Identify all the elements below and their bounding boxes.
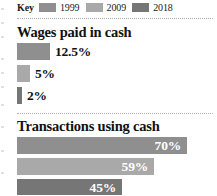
divider-top [17,18,213,19]
chart-legend: Key 1999 2009 2018 [17,1,179,13]
bar-label-wages-2018: 2% [27,88,47,104]
bar-label-transactions-2018: 45% [90,180,116,196]
bar-row-wages-1999: 12.5% [17,43,91,60]
legend-swatch-1999 [39,3,56,12]
bar-label-transactions-1999: 70% [155,138,181,154]
bar-label-wages-2009: 5% [35,66,55,82]
legend-swatch-2009 [86,3,103,12]
bar-row-transactions-2018: 45% [17,179,122,195]
legend-swatch-2018 [132,3,149,12]
section-title-wages: Wages paid in cash [17,24,131,41]
bar-row-transactions-2009: 59% [17,158,154,175]
legend-label-2018: 2018 [153,2,173,13]
bar-wages-2009 [17,65,30,82]
legend-item-1999: 1999 [39,2,80,13]
bar-wages-2018 [17,87,22,104]
legend-title: Key [17,2,34,13]
bar-row-wages-2018: 2% [17,87,47,104]
bar-label-wages-1999: 12.5% [55,44,91,60]
clipped-neighbour-column [0,0,5,195]
bar-row-wages-2009: 5% [17,65,55,82]
bar-transactions-1999: 70% [17,137,187,154]
legend-item-2009: 2009 [86,2,127,13]
bar-label-transactions-2009: 59% [122,159,148,175]
bar-transactions-2018: 45% [17,179,122,195]
bar-wages-1999 [17,43,50,60]
infographic-panel: Key 1999 2009 2018 Wages paid in cash 12… [0,0,217,195]
bar-transactions-2009: 59% [17,158,154,175]
legend-item-2018: 2018 [132,2,173,13]
bar-row-transactions-1999: 70% [17,137,187,154]
section-title-transactions: Transactions using cash [17,118,160,135]
legend-label-1999: 1999 [60,2,80,13]
divider-middle [17,113,213,114]
legend-label-2009: 2009 [107,2,127,13]
